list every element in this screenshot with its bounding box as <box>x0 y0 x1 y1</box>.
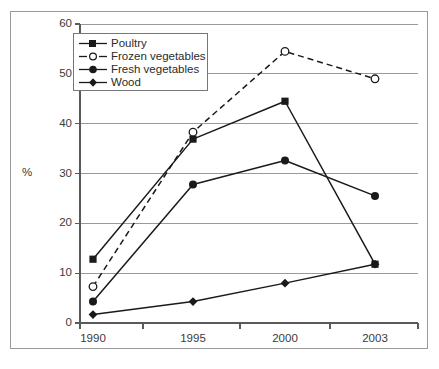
data-point-marker <box>281 279 290 288</box>
legend-marker-filled-square <box>78 37 108 50</box>
legend-item-wood: Wood <box>78 76 207 89</box>
data-point-marker <box>371 75 379 83</box>
legend-label: Poultry <box>111 37 147 50</box>
data-point-marker <box>281 98 288 105</box>
data-point-marker <box>371 192 379 200</box>
y-tick-label: 30 <box>42 167 72 179</box>
y-tick-label: 60 <box>42 17 72 29</box>
data-point-marker <box>281 157 289 165</box>
y-tick-label: 50 <box>42 67 72 79</box>
data-point-marker <box>189 180 197 188</box>
y-tick-label: 40 <box>42 117 72 129</box>
x-tick-label: 2003 <box>345 332 405 344</box>
legend-item-poultry: Poultry <box>78 37 207 50</box>
series-line-wood <box>93 264 375 314</box>
data-point-marker <box>189 136 196 143</box>
y-axis-label: % <box>22 166 32 178</box>
legend-label: Wood <box>111 76 141 89</box>
legend-marker-filled-circle <box>78 63 108 76</box>
y-tick-label: 0 <box>42 316 72 328</box>
legend-label: Fresh vegetables <box>111 63 199 76</box>
x-tick-label: 2000 <box>255 332 315 344</box>
legend-item-fresh-vegetables: Fresh vegetables <box>78 63 207 76</box>
data-point-marker <box>89 298 97 306</box>
data-point-marker <box>89 256 96 263</box>
data-point-marker <box>189 297 198 306</box>
legend-marker-filled-diamond <box>78 76 108 89</box>
y-tick-label: 10 <box>42 266 72 278</box>
chart-figure: 0 10 20 30 40 50 60 1990 1995 2000 2003 … <box>0 0 439 369</box>
series-line-poultry <box>93 101 375 264</box>
y-tick-label: 20 <box>42 216 72 228</box>
chart-legend: Poultry Frozen vegetables Fresh vegetabl… <box>73 33 208 91</box>
data-point-marker <box>281 48 289 56</box>
line-chart-canvas <box>0 0 439 369</box>
data-point-marker <box>89 310 98 319</box>
data-point-marker <box>189 128 197 136</box>
legend-item-frozen-vegetables: Frozen vegetables <box>78 50 207 63</box>
legend-marker-open-circle <box>78 50 108 63</box>
data-point-marker <box>89 283 97 291</box>
x-tick-label: 1995 <box>163 332 223 344</box>
x-tick-label: 1990 <box>63 332 123 344</box>
series-line-fresh-vegetables <box>93 161 375 302</box>
legend-label: Frozen vegetables <box>111 50 206 63</box>
